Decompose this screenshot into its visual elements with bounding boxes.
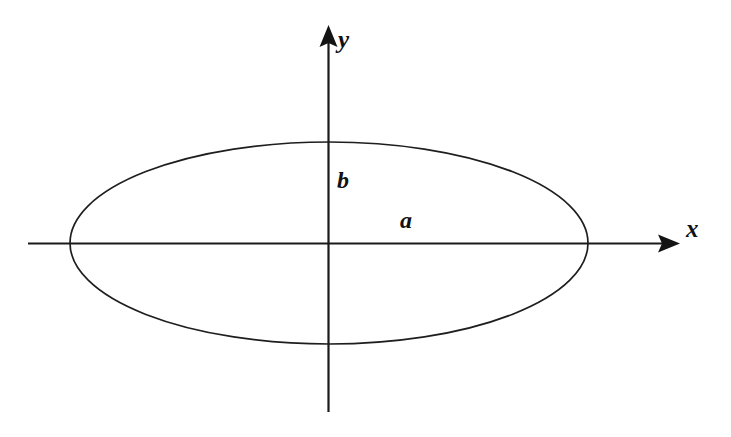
figure-canvas: y x b a — [0, 0, 731, 437]
semi-major-axis-label: a — [400, 208, 412, 232]
x-axis-label: x — [686, 216, 699, 241]
ellipse-diagram-svg — [0, 0, 731, 437]
y-axis-label: y — [338, 27, 349, 52]
semi-minor-axis-label: b — [337, 168, 349, 192]
